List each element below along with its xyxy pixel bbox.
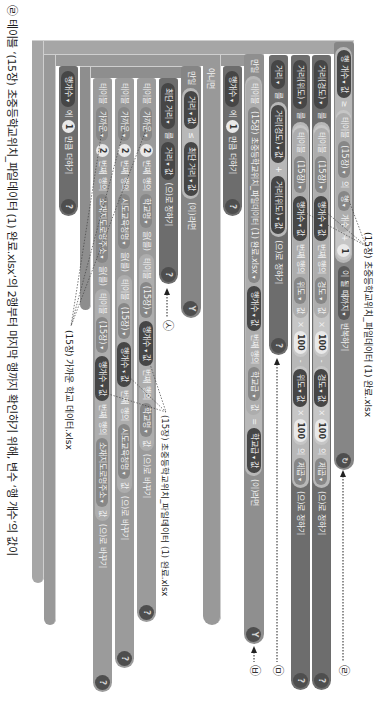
field-dropdown[interactable]: 학교급▾	[248, 367, 260, 401]
variable-reporter[interactable]: 거리▾값	[184, 91, 198, 129]
set-variable-block-distance[interactable]: 거리▾ 를 거리(경도)▾값 + 거리(위도)▾값 (으)로 정하기 ?	[269, 55, 288, 355]
replace-table-cell-block[interactable]: 테이블 가까운▾ 2 번째 행의 시도교육청명▾ 을(를) 테이블(15장)▾행…	[115, 78, 134, 668]
until-dropdown[interactable]: 이 될 때까지▾	[338, 266, 350, 319]
chevron-down-icon: ▾	[298, 390, 304, 393]
marker-r: ㉣	[338, 665, 349, 676]
repeat-until-block[interactable]: 행 개수▾값 ≥ 테이블(15장)▾의행▾개수 + 1 이 될 때까지▾ 반복하…	[334, 42, 354, 470]
help-icon[interactable]: ?	[293, 673, 308, 688]
variable-reporter[interactable]: 위도▾값	[294, 369, 308, 407]
change-variable-block[interactable]: 행개수▾ 에 1 만큼 더하기 ?	[223, 66, 242, 216]
help-icon[interactable]: ?	[95, 675, 110, 690]
number-input[interactable]: 100	[294, 419, 307, 442]
if-else-block-header[interactable]: 만일 테이블(15장) 초중등학교위치_파일데이터 (1) 완료.xlsx▾행개…	[244, 54, 264, 644]
variable-dropdown[interactable]: 거리(경도)▾	[315, 60, 329, 109]
chevron-down-icon: ▾	[122, 134, 128, 137]
math-function-dropdown[interactable]: 제곱▾	[316, 458, 328, 485]
variable-row-count-reporter[interactable]: 행개수▾값	[140, 321, 154, 366]
number-input[interactable]: 100	[315, 331, 328, 354]
variable-row-count-reporter[interactable]: 행 개수▾값	[337, 50, 351, 98]
variable-dropdown[interactable]: 행개수▾	[62, 71, 76, 107]
value-label: 값	[121, 375, 129, 382]
field-dropdown[interactable]: 학교명▾	[141, 194, 153, 228]
row-col-dropdown[interactable]: 행▾	[338, 191, 350, 211]
variable-row-count-reporter[interactable]: 행개수▾값	[118, 342, 132, 387]
set-label: (으)로 정하기	[297, 491, 305, 535]
chevron-down-icon: ▾	[166, 121, 172, 124]
set-variable-block-min-distance[interactable]: 최단 거리▾ 를 거리▾값 (으)로 정하기 ?	[159, 78, 178, 284]
variable-row-count-reporter[interactable]: 행개수▾값	[294, 196, 308, 241]
field-dropdown[interactable]: 시도교육청명▾	[119, 194, 131, 249]
table-dropdown[interactable]: (15장) 초중등학교위치_파일데이터 (1) 완료.xlsx▾	[248, 107, 260, 283]
operator-equals[interactable]: =	[250, 418, 258, 425]
variable-dropdown[interactable]: 최단 거리▾	[162, 83, 176, 129]
variable-reporter[interactable]: 학교급▾값	[247, 428, 261, 473]
change-variable-block[interactable]: 행개수▾ 에 1 만큼 더하기 ?	[59, 66, 78, 216]
field-dropdown[interactable]: 학교명▾	[141, 403, 153, 437]
set-variable-block-lon[interactable]: 거리(경도)▾ 를 테이블(15장)▾행개수▾값번째 행의경도▾값 × 100 …	[312, 55, 331, 690]
number-input[interactable]: 100	[315, 419, 328, 442]
variable-dropdown[interactable]: 거리▾	[272, 60, 286, 89]
help-icon[interactable]: ?	[225, 199, 240, 214]
replace-table-cell-block[interactable]: 테이블 가까운▾ 2 번째 행의 소재지도로명주소▾ 을(를) 테이블(15장)…	[93, 78, 112, 692]
table-name: 가까운	[121, 111, 129, 132]
chevron-down-icon: ▾	[122, 370, 128, 373]
operator-gte[interactable]: ≥	[340, 101, 348, 108]
field-dropdown[interactable]: 경도▾	[316, 277, 328, 304]
math-function-dropdown[interactable]: 제곱▾	[295, 458, 307, 485]
repeat-icon[interactable]: ↻	[337, 453, 352, 468]
field-dropdown[interactable]: 시도교육청명▾	[119, 424, 131, 479]
chevron-down-icon: ▾	[251, 314, 257, 317]
variable-reporter[interactable]: 거리(경도)▾값	[272, 105, 286, 163]
variable-name: 학교급	[250, 433, 258, 454]
variable-name: 행개수	[250, 291, 258, 312]
field-dropdown[interactable]: 소재지도로명주소▾	[97, 194, 109, 263]
variable-dropdown[interactable]: 행개수▾	[226, 71, 240, 107]
variable-row-count-reporter[interactable]: 행개수▾값	[96, 356, 110, 401]
replace-table-cell-block[interactable]: 테이블 가까운▾ 2 번째 행의 학교명▾ 을(를) 테이블(15장)▾행개수▾…	[137, 78, 156, 622]
variable-reporter[interactable]: 거리(위도)▾값	[272, 176, 286, 234]
help-icon[interactable]: ?	[161, 267, 176, 282]
number-input[interactable]: 2	[140, 144, 153, 157]
chevron-down-icon: ▾	[66, 99, 72, 102]
number-input[interactable]: 2	[96, 144, 109, 157]
compare-reporter: 행 개수▾값 ≥ 테이블(15장)▾의행▾개수 + 1	[336, 47, 353, 263]
operator-lte[interactable]: ≤	[187, 132, 195, 139]
if-block-header[interactable]: 만일 거리▾값 ≤ 최단 거리▾값 (이)라면 Y	[181, 66, 201, 318]
table-dropdown[interactable]: (15장)▾	[119, 303, 131, 339]
help-icon[interactable]: ?	[117, 651, 132, 666]
table-dropdown[interactable]: (15장)▾	[141, 282, 153, 318]
table-dropdown[interactable]: (15장)▾	[338, 141, 350, 177]
number-input[interactable]: 100	[294, 331, 307, 354]
help-icon[interactable]: ?	[271, 338, 286, 353]
help-icon[interactable]: ?	[139, 605, 154, 620]
variable-dropdown[interactable]: 거리(위도)▾	[294, 60, 308, 109]
table-dropdown[interactable]: (15장)▾	[97, 317, 109, 353]
number-input[interactable]: 1	[226, 120, 239, 133]
table-name: (15장)	[121, 307, 129, 330]
product-reporter: 위도▾값 × 100	[293, 366, 308, 445]
table-dropdown[interactable]: 가까운▾	[97, 107, 109, 141]
field-dropdown[interactable]: 소재지도로명주소▾	[97, 438, 109, 507]
branch-icon[interactable]: Y	[184, 301, 199, 316]
variable-reporter[interactable]: 거리▾값	[162, 142, 176, 180]
count-label: 개수	[340, 214, 348, 228]
help-icon[interactable]: ?	[314, 673, 329, 688]
field-dropdown[interactable]: 위도▾	[295, 277, 307, 304]
number-input[interactable]: 1	[62, 120, 75, 133]
branch-icon[interactable]: Y	[247, 627, 262, 642]
value-label: 값	[143, 440, 151, 447]
number-input[interactable]: 2	[118, 144, 131, 157]
help-icon[interactable]: ?	[61, 199, 76, 214]
variable-row-count-reporter[interactable]: 행개수▾값	[247, 286, 261, 331]
number-input[interactable]: 1	[338, 244, 351, 257]
table-dropdown[interactable]: (15장)▾	[295, 156, 307, 192]
set-variable-block-lat[interactable]: 거리(위도)▾ 를 테이블(15장)▾행개수▾값번째 행의위도▾값 × 100 …	[291, 55, 310, 690]
variable-row-count-reporter[interactable]: 행개수▾값	[315, 196, 329, 241]
table-dropdown[interactable]: (15장)▾	[316, 156, 328, 192]
variable-reporter[interactable]: 경도▾값	[315, 369, 329, 407]
of-label: 의	[318, 448, 326, 455]
table-dropdown[interactable]: 가까운▾	[119, 107, 131, 141]
table-dropdown[interactable]: 가까운▾	[141, 107, 153, 141]
variable-reporter[interactable]: 최단 거리▾값	[184, 142, 198, 197]
chevron-down-icon: ▾	[276, 146, 282, 149]
